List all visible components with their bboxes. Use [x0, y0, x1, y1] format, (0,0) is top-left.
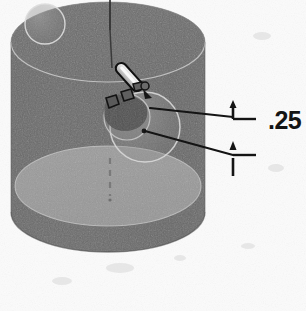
cylinder-interior: [15, 146, 201, 226]
technical-illustration: [0, 0, 306, 311]
dimension-value-label: .25: [268, 108, 301, 133]
speck-3: [52, 277, 72, 285]
chip-4: [141, 82, 149, 90]
dashed-axis-endpoint: [108, 198, 111, 201]
speck-6: [268, 164, 284, 172]
figure-canvas: .25: [0, 0, 306, 311]
speck-5: [253, 32, 271, 40]
speck-4: [174, 255, 186, 261]
speck-1: [241, 243, 255, 249]
top-left-sphere-indicator: [25, 4, 65, 44]
chip-2: [121, 89, 134, 101]
speck-2: [106, 263, 134, 273]
